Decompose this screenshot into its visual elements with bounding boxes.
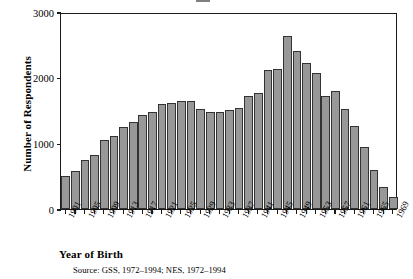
bar	[167, 103, 176, 209]
x-tick-mark	[257, 210, 258, 214]
x-tick-mark	[94, 210, 95, 214]
bar	[119, 127, 128, 209]
bar	[331, 91, 340, 209]
x-tick-mark	[238, 210, 239, 214]
x-tick-mark	[103, 210, 104, 214]
x-tick-mark	[200, 210, 201, 214]
x-tick-mark	[315, 210, 316, 214]
bar	[138, 115, 147, 209]
bar	[283, 36, 292, 209]
x-tick-mark	[334, 210, 335, 214]
y-tick-label: 2000	[18, 73, 54, 84]
bar	[321, 96, 330, 209]
x-axis-title: Year of Birth	[59, 248, 123, 260]
bar	[254, 93, 263, 209]
x-tick-mark	[190, 210, 191, 214]
bar	[244, 96, 253, 209]
y-tick-label: 0	[18, 205, 54, 216]
bar	[389, 197, 398, 209]
x-tick-mark	[363, 210, 364, 214]
source-note: Source: GSS, 1972–1994; NES, 1972–1994	[73, 265, 226, 275]
x-tick-mark	[132, 210, 133, 214]
bar	[341, 109, 350, 209]
x-tick-mark	[325, 210, 326, 214]
x-tick-mark	[123, 210, 124, 214]
plot-area	[60, 13, 397, 210]
bar	[225, 110, 234, 209]
x-tick-mark	[229, 210, 230, 214]
chart-figure: Number of Respondents 0100020003000 1901…	[0, 0, 413, 279]
bar	[312, 73, 321, 209]
x-tick-mark	[84, 210, 85, 214]
x-tick-mark	[151, 210, 152, 214]
bar	[61, 176, 70, 209]
bar	[110, 136, 119, 209]
bar	[177, 101, 186, 209]
x-tick-mark	[383, 210, 384, 214]
bar	[148, 112, 157, 209]
bar	[100, 140, 109, 209]
bar	[81, 160, 90, 209]
bar	[216, 112, 225, 209]
x-tick-mark	[113, 210, 114, 214]
x-tick-mark	[306, 210, 307, 214]
x-tick-mark	[209, 210, 210, 214]
y-tick-label: 3000	[18, 8, 54, 19]
bar	[196, 109, 205, 209]
bar	[129, 122, 138, 209]
x-tick-mark	[74, 210, 75, 214]
bar	[273, 69, 282, 209]
x-tick-mark	[180, 210, 181, 214]
bar	[264, 70, 273, 209]
bar	[350, 126, 359, 209]
y-tick-label: 1000	[18, 139, 54, 150]
y-axis-title: Number of Respondents	[21, 24, 33, 204]
bar	[235, 108, 244, 209]
x-tick-mark	[344, 210, 345, 214]
bar	[293, 51, 302, 209]
bar-series	[61, 14, 396, 209]
x-tick-mark	[171, 210, 172, 214]
x-tick-mark	[392, 210, 393, 214]
x-tick-mark	[286, 210, 287, 214]
bar	[302, 63, 311, 209]
x-tick-mark	[267, 210, 268, 214]
clipped-title-sliver	[196, 0, 210, 2]
bar	[206, 112, 215, 209]
x-tick-mark	[248, 210, 249, 214]
x-tick-mark	[161, 210, 162, 214]
bar	[158, 104, 167, 209]
bar	[187, 101, 196, 209]
